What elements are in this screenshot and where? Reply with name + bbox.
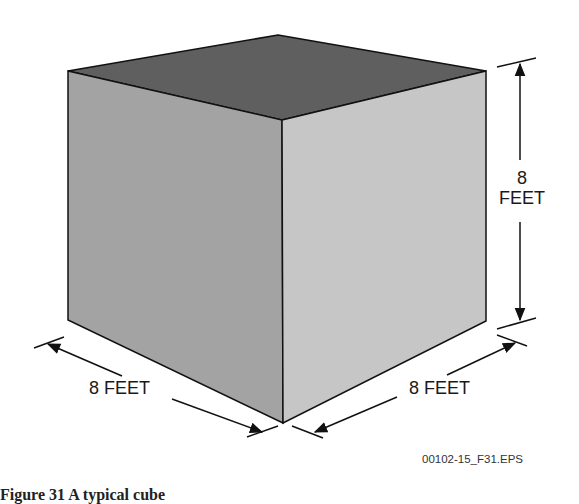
left-extension-start bbox=[34, 337, 64, 348]
right-depth-label: 8 FEET bbox=[409, 378, 470, 398]
height-extension-top bbox=[497, 58, 536, 67]
height-unit: FEET bbox=[497, 188, 547, 208]
height-label: 8 FEET bbox=[497, 168, 547, 208]
file-code: 00102-15_F31.EPS bbox=[422, 453, 523, 465]
cube-left-face bbox=[68, 71, 283, 423]
figure-caption: Figure 31 A typical cube bbox=[0, 486, 165, 504]
height-value: 8 bbox=[497, 168, 547, 188]
right-arrow-end bbox=[447, 343, 515, 375]
left-arrow-start bbox=[48, 344, 122, 376]
left-width-label: 8 FEET bbox=[89, 378, 150, 398]
right-arrow-start bbox=[315, 397, 397, 432]
right-extension-start bbox=[292, 426, 323, 438]
height-extension-bottom bbox=[497, 318, 536, 329]
cube-right-face bbox=[282, 71, 486, 423]
